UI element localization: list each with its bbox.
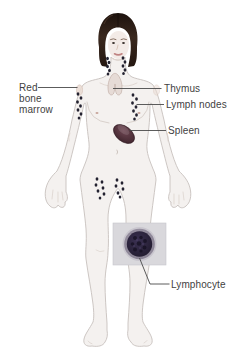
humerus-head-right bbox=[153, 85, 159, 95]
label-lymph-nodes: Lymph nodes bbox=[166, 99, 227, 110]
nipple-left bbox=[96, 112, 99, 114]
lymphatic-system-diagram: Red bone marrow Thymus Lymph nodes Splee… bbox=[0, 0, 246, 351]
human-figure-illustration bbox=[0, 0, 246, 351]
nipple-right bbox=[138, 112, 141, 114]
label-lymphocyte: Lymphocyte bbox=[171, 279, 226, 290]
label-red-bone-marrow: Red bone marrow bbox=[19, 82, 53, 115]
label-red-bone-marrow-line1: Red bbox=[19, 82, 53, 93]
head bbox=[98, 13, 137, 67]
label-red-bone-marrow-line2: bone bbox=[19, 93, 53, 104]
label-red-bone-marrow-line3: marrow bbox=[19, 104, 53, 115]
label-thymus: Thymus bbox=[164, 83, 200, 94]
label-spleen: Spleen bbox=[168, 125, 200, 136]
